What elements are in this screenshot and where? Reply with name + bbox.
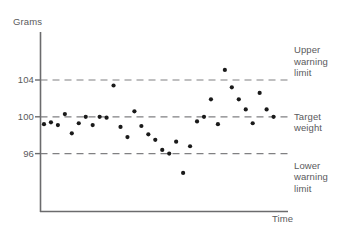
annotation-upper-line-2: warning	[294, 56, 328, 68]
annotation-upper-line-3: limit	[294, 67, 328, 79]
y-tick-label-100: 100	[4, 111, 34, 122]
data-point	[77, 121, 81, 125]
data-point	[188, 144, 192, 148]
annotation-lower-line-3: limit	[294, 183, 328, 195]
plot-area	[0, 0, 344, 233]
data-point	[181, 171, 185, 175]
data-point	[42, 122, 46, 126]
y-tick-label-104: 104	[4, 74, 34, 85]
data-point	[146, 132, 150, 136]
data-point	[271, 115, 275, 119]
data-point	[98, 115, 102, 119]
annotation-lower-warning-limit: Lower warning limit	[294, 160, 328, 195]
data-point	[118, 125, 122, 129]
data-point	[49, 120, 53, 124]
data-point	[202, 115, 206, 119]
data-point	[125, 135, 129, 139]
data-point	[223, 68, 227, 72]
data-point	[63, 112, 67, 116]
data-point	[195, 119, 199, 123]
annotation-lower-line-2: warning	[294, 171, 328, 183]
annotation-target-line-2: weight	[294, 122, 322, 134]
data-point	[139, 124, 143, 128]
data-point	[56, 123, 60, 127]
data-point	[258, 91, 262, 95]
annotation-upper-warning-limit: Upper warning limit	[294, 44, 328, 79]
data-point	[237, 97, 241, 101]
data-point	[167, 152, 171, 156]
data-point	[244, 107, 248, 111]
data-point	[104, 116, 108, 120]
data-point	[153, 138, 157, 142]
data-point	[84, 115, 88, 119]
data-point	[132, 109, 136, 113]
data-point	[70, 131, 74, 135]
data-point	[160, 148, 164, 152]
y-tick-label-96: 96	[4, 148, 34, 159]
data-point	[111, 83, 115, 87]
data-point	[174, 140, 178, 144]
data-point	[91, 123, 95, 127]
data-point	[216, 122, 220, 126]
annotation-upper-line-1: Upper	[294, 44, 328, 56]
data-point	[251, 121, 255, 125]
data-point	[209, 97, 213, 101]
control-chart: Grams Time 104 100 96 Upper warning limi…	[0, 0, 344, 233]
data-point	[265, 107, 269, 111]
annotation-target-line-1: Target	[294, 111, 322, 123]
data-point-group	[42, 68, 276, 175]
reference-lines	[41, 80, 293, 154]
annotation-lower-line-1: Lower	[294, 160, 328, 172]
annotation-target-weight: Target weight	[294, 111, 322, 134]
data-point	[230, 85, 234, 89]
